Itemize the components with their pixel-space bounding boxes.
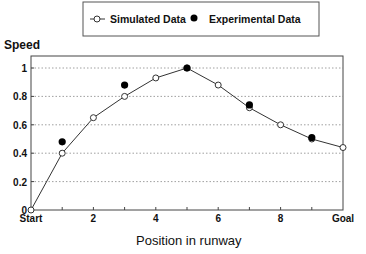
x-tick-label: Start bbox=[20, 213, 43, 224]
simulated-point bbox=[59, 150, 65, 156]
plot-frame bbox=[31, 56, 343, 210]
experimental-point bbox=[246, 101, 253, 108]
x-tick-label: 8 bbox=[278, 213, 284, 224]
simulated-series bbox=[28, 65, 346, 213]
y-tick-label: 0.6 bbox=[13, 120, 27, 131]
y-tick-label: 0.8 bbox=[13, 91, 27, 102]
experimental-point bbox=[183, 64, 190, 71]
y-tick-label: 1 bbox=[21, 63, 27, 74]
x-axis-title: Position in runway bbox=[136, 233, 242, 248]
open-circle-icon bbox=[94, 16, 100, 22]
y-axis-title: Speed bbox=[4, 38, 40, 52]
x-tick-label: 4 bbox=[153, 213, 159, 224]
experimental-point bbox=[121, 81, 128, 88]
x-tick-label: 2 bbox=[91, 213, 97, 224]
legend-simulated-label: Simulated Data bbox=[110, 13, 186, 25]
legend: Simulated Data Experimental Data bbox=[83, 2, 319, 36]
filled-circle-icon bbox=[191, 15, 198, 22]
experimental-point bbox=[308, 134, 315, 141]
simulated-point bbox=[153, 75, 159, 81]
x-tick-label: 6 bbox=[215, 213, 221, 224]
simulated-line bbox=[31, 68, 343, 210]
simulated-point bbox=[90, 115, 96, 121]
legend-experimental-label: Experimental Data bbox=[209, 13, 301, 25]
gridlines bbox=[31, 68, 343, 182]
simulated-point bbox=[215, 82, 221, 88]
y-tick-label: 0.2 bbox=[13, 177, 27, 188]
simulated-point bbox=[340, 145, 346, 151]
experimental-point bbox=[59, 138, 66, 145]
speed-chart: Simulated Data Experimental Data Speed 0… bbox=[0, 0, 366, 254]
y-tick-label: 0.4 bbox=[13, 148, 27, 159]
simulated-point bbox=[28, 207, 34, 213]
x-tick-label: Goal bbox=[332, 213, 354, 224]
experimental-series bbox=[59, 64, 316, 145]
simulated-point bbox=[278, 122, 284, 128]
simulated-point bbox=[122, 93, 128, 99]
